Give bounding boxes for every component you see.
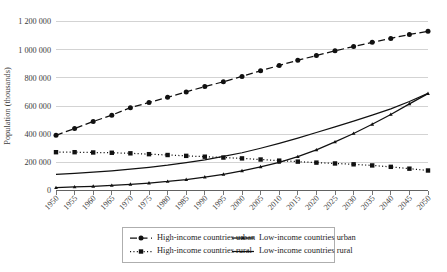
data-point-marker [240, 156, 244, 160]
x-tick-label: 1980 [155, 194, 173, 212]
x-tick-labels-group: 1950195519601965197019751980198519901995… [43, 194, 433, 212]
population-line-chart: 0200 000400 000600 000800 0001 000 0001 … [0, 0, 447, 272]
y-axis-title-group: Population (thousands) [3, 67, 12, 145]
data-point-marker [333, 161, 337, 165]
x-tick-label: 1965 [99, 194, 117, 212]
data-point-marker [202, 84, 207, 89]
data-point-marker [54, 150, 58, 154]
data-point-marker [314, 53, 319, 58]
legend-entry-label: Low-income countries urban [259, 233, 357, 242]
data-point-marker [426, 29, 431, 34]
data-point-marker [388, 36, 393, 41]
data-point-marker [426, 168, 430, 172]
series-1 [54, 29, 431, 138]
data-series-group [54, 29, 431, 189]
y-tick-label: 800 000 [24, 74, 51, 83]
data-point-marker [72, 150, 76, 154]
data-point-marker [296, 159, 300, 163]
data-point-marker [203, 155, 207, 159]
data-point-marker [258, 68, 263, 73]
x-tick-label: 2035 [359, 194, 377, 212]
series-line [56, 31, 428, 135]
x-tick-label: 2045 [396, 194, 414, 212]
data-point-marker [165, 153, 169, 157]
x-tick-label: 2025 [322, 194, 340, 212]
data-point-marker [351, 44, 356, 49]
y-tick-label: 600 000 [24, 102, 51, 111]
chart-container: 0200 000400 000600 000800 0001 000 0001 … [0, 0, 447, 272]
data-point-marker [389, 165, 393, 169]
x-tick-label: 1955 [62, 194, 80, 212]
legend-entry-label: Low-income countries rural [259, 246, 353, 255]
data-point-marker [128, 151, 132, 155]
data-point-marker [333, 48, 338, 53]
x-tick-label: 2015 [285, 194, 303, 212]
data-point-marker [314, 160, 318, 164]
x-tick-label: 1985 [173, 194, 191, 212]
axes-group [56, 191, 428, 195]
data-point-marker [72, 126, 77, 131]
data-point-marker [184, 89, 189, 94]
x-tick-label: 1975 [136, 194, 154, 212]
y-axis-title: Population (thousands) [3, 67, 12, 145]
data-point-marker [221, 79, 226, 84]
data-point-marker [277, 63, 282, 68]
chart-legend: High-income countries urbanHigh-income c… [122, 227, 357, 262]
x-tick-label: 2040 [378, 194, 396, 212]
x-tick-label: 1950 [43, 194, 61, 212]
y-tick-label: 1 200 000 [18, 17, 51, 26]
data-point-marker [240, 74, 245, 79]
data-point-marker [139, 249, 143, 253]
data-point-marker [128, 105, 133, 110]
data-point-marker [258, 157, 262, 161]
data-point-marker [139, 236, 144, 241]
data-point-marker [370, 40, 375, 45]
data-point-marker [407, 32, 412, 37]
x-tick-label: 1960 [80, 194, 98, 212]
data-point-marker [407, 166, 411, 170]
y-tick-label: 0 [47, 186, 51, 195]
data-point-marker [351, 162, 355, 166]
series-line [56, 94, 428, 188]
y-tick-label: 1 000 000 [18, 46, 51, 55]
x-tick-label: 2030 [341, 194, 359, 212]
data-point-marker [109, 113, 114, 118]
x-tick-label: 2010 [266, 194, 284, 212]
data-point-marker [184, 154, 188, 158]
data-point-marker [54, 133, 59, 138]
x-tick-label: 2050 [415, 194, 433, 212]
data-point-marker [91, 150, 95, 154]
data-point-marker [91, 119, 96, 124]
x-tick-label: 2000 [229, 194, 247, 212]
x-tick-label: 1990 [192, 194, 210, 212]
x-tick-label: 1995 [210, 194, 228, 212]
y-tick-label: 400 000 [24, 130, 51, 139]
data-point-marker [110, 151, 114, 155]
data-point-marker [370, 163, 374, 167]
x-tick-label: 2005 [248, 194, 266, 212]
data-point-marker [147, 100, 152, 105]
y-tick-labels-group: 0200 000400 000600 000800 0001 000 0001 … [18, 17, 51, 195]
y-tick-label: 200 000 [24, 158, 51, 167]
x-tick-label: 1970 [117, 194, 135, 212]
x-tick-label: 2020 [303, 194, 321, 212]
data-point-marker [165, 95, 170, 100]
data-point-marker [295, 58, 300, 63]
data-point-marker [147, 152, 151, 156]
